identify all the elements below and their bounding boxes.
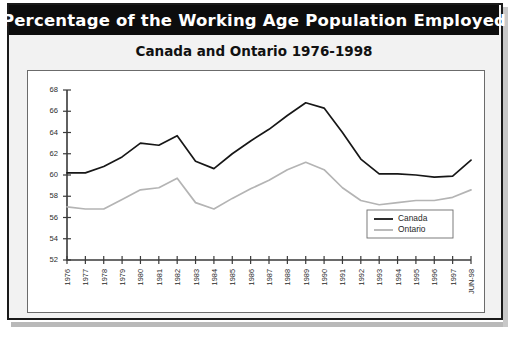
chart-page: Percentage of the Working Age Population… [0, 0, 514, 347]
y-tick-label: 66 [50, 106, 58, 115]
y-tick-label: 52 [50, 255, 58, 264]
x-tick-label: 1996 [430, 269, 439, 285]
x-tick-label: 1988 [283, 269, 292, 285]
frame-shadow-right [503, 7, 508, 327]
x-tick-label: 1982 [173, 269, 182, 285]
x-tick-label: 1995 [412, 269, 421, 285]
line-chart: 525456586062646668 197619771978197919801… [27, 70, 485, 313]
x-tick-label: 1979 [118, 269, 127, 285]
frame-shadow [11, 322, 507, 327]
series-line-canada [67, 103, 471, 177]
x-axis-labels: 1976197719781979198019811982198319841985… [63, 269, 476, 294]
x-tick-label: 1993 [375, 269, 384, 285]
x-tick-label: 1989 [302, 269, 311, 285]
y-tick-label: 68 [50, 85, 58, 94]
y-tick-label: 58 [50, 191, 58, 200]
x-tick-label: 1992 [357, 269, 366, 285]
y-tick-label: 64 [50, 128, 58, 137]
series-line-ontario [67, 162, 471, 209]
x-tick-label: 1994 [394, 269, 403, 285]
x-tick-label: JUN-98 [467, 269, 476, 294]
chart-legend: CanadaOntario [367, 210, 453, 238]
legend-label-ontario: Ontario [398, 224, 426, 234]
legend-label-canada: Canada [398, 213, 428, 223]
x-tick-label: 1976 [63, 269, 72, 285]
x-tick-label: 1990 [320, 269, 329, 285]
x-tick-label: 1987 [265, 269, 274, 285]
y-tick-label: 54 [50, 234, 58, 243]
x-tick-label: 1978 [100, 269, 109, 285]
page-title: Percentage of the Working Age Population… [2, 11, 506, 30]
x-tick-label: 1997 [449, 269, 458, 285]
x-tick-label: 1977 [81, 269, 90, 285]
y-tick-label: 60 [50, 170, 58, 179]
y-axis-labels: 525456586062646668 [50, 85, 58, 264]
x-tick-label: 1983 [192, 269, 201, 285]
title-banner: Percentage of the Working Age Population… [9, 5, 499, 35]
x-tick-label: 1984 [210, 269, 219, 285]
x-tick-label: 1985 [228, 269, 237, 285]
x-tick-label: 1986 [247, 269, 256, 285]
chart-subtitle-container: Canada and Ontario 1976-1998 [9, 39, 499, 63]
y-tick-label: 56 [50, 213, 58, 222]
x-tick-label: 1991 [338, 269, 347, 285]
y-tick-label: 62 [50, 149, 58, 158]
chart-subtitle: Canada and Ontario 1976-1998 [136, 43, 373, 59]
x-tick-label: 1981 [155, 269, 164, 285]
x-tick-label: 1980 [136, 269, 145, 285]
